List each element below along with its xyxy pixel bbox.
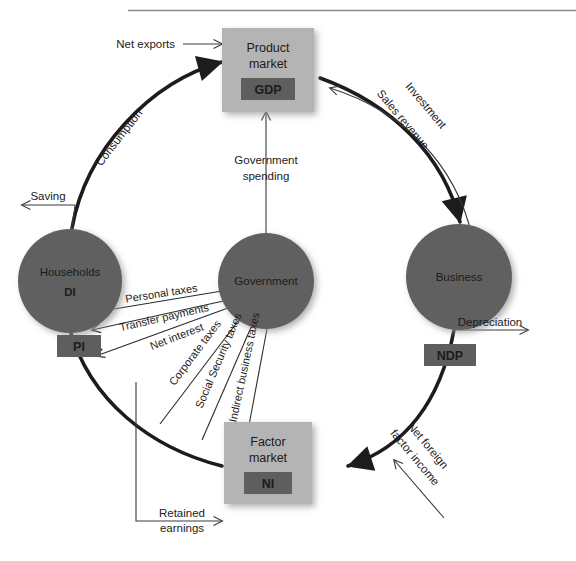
flow-consumption-arc: [72, 62, 222, 228]
product-market-label-line1: Product: [246, 41, 290, 55]
factor-market-label-line2: market: [249, 451, 288, 465]
net-exports-label: Net exports: [116, 38, 175, 50]
ndp-chip-label: NDP: [437, 349, 463, 363]
node-households[interactable]: [18, 229, 122, 333]
depreciation-label: Depreciation: [458, 316, 523, 328]
households-chip-label: DI: [64, 286, 76, 298]
consumption-label: Consumption: [93, 107, 144, 168]
factor-market-label-line1: Factor: [250, 435, 285, 449]
government-spending-label-line1: Government: [234, 154, 298, 166]
government-label: Government: [234, 275, 298, 287]
saving-label: Saving: [30, 190, 65, 202]
diagram-canvas: Product market GDP Factor market NI Hous…: [0, 0, 576, 561]
government-spending-label-line2: spending: [243, 170, 290, 182]
gdp-chip-label: GDP: [254, 83, 281, 97]
retained-earnings-label-line2: earnings: [160, 522, 204, 534]
households-label: Households: [40, 266, 101, 278]
retained-earnings-label-line1: Retained: [159, 507, 205, 519]
ni-chip-label: NI: [262, 477, 275, 491]
circular-flow-diagram: Product market GDP Factor market NI Hous…: [0, 0, 576, 561]
pi-chip-label: PI: [73, 340, 85, 354]
business-label: Business: [436, 271, 483, 283]
product-market-label-line2: market: [249, 57, 288, 71]
